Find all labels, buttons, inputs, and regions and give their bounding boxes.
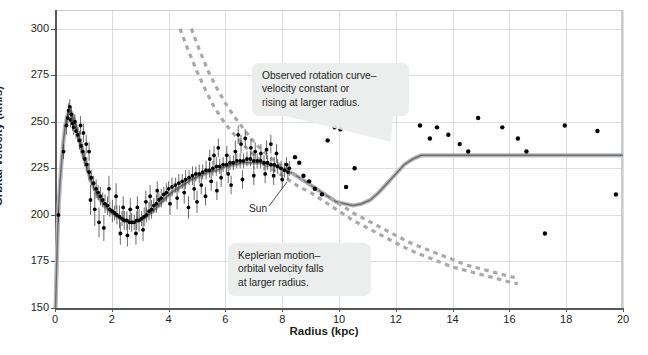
data-point — [106, 204, 110, 208]
data-point — [287, 166, 291, 170]
data-point — [144, 200, 148, 204]
data-point — [121, 206, 125, 210]
data-point — [320, 192, 324, 196]
x-tick-label: 10 — [319, 313, 359, 325]
x-tick-label: 20 — [603, 313, 643, 325]
data-point — [208, 168, 212, 172]
data-point — [269, 142, 273, 146]
data-point — [85, 163, 89, 167]
data-point — [352, 166, 356, 170]
data-point — [259, 152, 263, 156]
x-tick-label: 0 — [35, 313, 75, 325]
data-point — [265, 148, 269, 152]
y-tick-label: 200 — [11, 208, 49, 220]
gridline-vertical — [623, 10, 624, 308]
data-point — [543, 231, 547, 235]
x-tick-mark — [509, 308, 510, 312]
x-tick-label: 2 — [92, 313, 132, 325]
data-point — [195, 200, 199, 204]
data-point — [187, 206, 191, 210]
y-tick-label: 300 — [11, 22, 49, 34]
data-point — [93, 207, 97, 211]
data-point — [563, 123, 567, 127]
data-point — [524, 149, 528, 153]
data-point — [128, 207, 132, 211]
x-tick-mark — [453, 308, 454, 312]
x-tick-mark — [623, 308, 624, 312]
data-point — [283, 168, 287, 172]
annotation-observed-line-1: Observed rotation curve– — [262, 69, 400, 82]
data-point — [219, 176, 223, 180]
data-point — [218, 165, 222, 169]
data-point — [252, 174, 256, 178]
data-point — [175, 196, 179, 200]
x-axis-title: Radius (kpc) — [0, 325, 648, 337]
y-tick-mark — [51, 308, 55, 309]
data-point — [458, 142, 462, 146]
data-point — [101, 198, 105, 202]
data-point — [177, 181, 181, 185]
data-point — [253, 150, 257, 154]
data-point — [239, 142, 243, 146]
data-point — [248, 157, 252, 161]
data-point — [216, 146, 220, 150]
data-point — [215, 189, 219, 193]
data-point — [180, 179, 184, 183]
data-point — [97, 220, 101, 224]
data-point — [269, 163, 273, 167]
data-point — [107, 187, 111, 191]
data-point — [231, 161, 235, 165]
data-point — [99, 194, 103, 198]
data-point — [226, 172, 230, 176]
data-point — [225, 153, 229, 157]
x-tick-mark — [566, 308, 567, 312]
data-point — [272, 163, 276, 167]
data-point — [167, 187, 171, 191]
data-point — [221, 163, 225, 167]
y-axis-title: Orbital velocity (km/s) — [0, 0, 4, 355]
data-point — [276, 165, 280, 169]
data-point — [428, 136, 432, 140]
data-point — [614, 192, 618, 196]
data-point — [182, 191, 186, 195]
data-point — [236, 133, 240, 137]
x-tick-mark — [55, 308, 56, 312]
data-point — [164, 191, 168, 195]
data-point — [325, 138, 329, 142]
data-point — [82, 131, 86, 135]
data-point — [102, 226, 106, 230]
data-point — [69, 118, 73, 122]
data-point — [135, 206, 139, 210]
data-point — [211, 166, 215, 170]
data-point — [194, 172, 198, 176]
data-point — [81, 150, 85, 154]
annotation-keplerian-motion: Keplerian motion– orbital velocity falls… — [228, 243, 371, 296]
data-point — [141, 228, 145, 232]
data-point — [57, 213, 61, 217]
data-point — [446, 133, 450, 137]
data-point — [70, 112, 74, 116]
data-point — [134, 232, 138, 236]
data-point — [174, 183, 178, 187]
data-point — [197, 172, 201, 176]
data-point — [249, 146, 253, 150]
data-point — [155, 189, 159, 193]
data-point — [209, 179, 213, 183]
data-point — [187, 176, 191, 180]
data-point — [476, 116, 480, 120]
data-point — [500, 125, 504, 129]
data-point — [126, 233, 130, 237]
data-point — [199, 183, 203, 187]
x-tick-mark — [396, 308, 397, 312]
data-point — [212, 153, 216, 157]
data-point — [285, 163, 289, 167]
data-point — [79, 124, 83, 128]
data-point — [170, 185, 174, 189]
data-point — [191, 174, 195, 178]
data-point — [73, 120, 77, 124]
data-point — [279, 166, 283, 170]
data-point — [229, 183, 233, 187]
data-point — [243, 137, 247, 141]
annotation-keplerian-line-2: orbital velocity falls — [238, 262, 362, 275]
data-point — [118, 232, 122, 236]
